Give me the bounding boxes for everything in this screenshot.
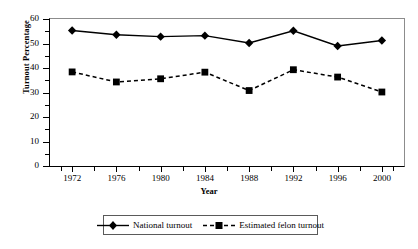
data-point-1-1996 — [334, 74, 341, 81]
data-point-0-1988 — [245, 39, 253, 47]
x-tick-minor-1998 — [360, 167, 361, 171]
y-tick-label-0: 0 — [0, 161, 39, 170]
x-tick-1984 — [205, 167, 206, 172]
x-tick-label-1992: 1992 — [271, 173, 315, 183]
x-tick-label-1996: 1996 — [316, 173, 360, 183]
y-tick-label-10: 10 — [0, 137, 39, 146]
data-point-0-1996 — [333, 42, 341, 50]
chart-legend: National turnout Estimated felon turnout — [103, 215, 318, 235]
x-tick-1976 — [116, 167, 117, 172]
x-tick-label-1984: 1984 — [183, 173, 227, 183]
data-point-0-1972 — [68, 26, 76, 34]
data-point-1-1984 — [201, 69, 208, 76]
legend-label-felon: Estimated felon turnout — [239, 220, 324, 230]
legend-label-national: National turnout — [133, 220, 192, 230]
x-tick-1996 — [338, 167, 339, 172]
data-point-1-2000 — [378, 89, 385, 96]
x-tick-label-2000: 2000 — [360, 173, 404, 183]
x-tick-1980 — [161, 167, 162, 172]
series-canvas — [50, 19, 404, 166]
x-tick-1988 — [249, 167, 250, 172]
x-tick-label-1972: 1972 — [50, 173, 94, 183]
legend-swatch-solid-diamond-icon — [97, 220, 129, 231]
x-tick-minor-edge-0 — [61, 167, 62, 171]
data-point-0-1976 — [112, 30, 120, 38]
data-point-0-2000 — [378, 36, 386, 44]
data-point-0-1992 — [289, 27, 297, 35]
x-tick-1992 — [293, 167, 294, 172]
x-tick-2000 — [382, 167, 383, 172]
legend-swatch-dashed-square-icon — [203, 220, 235, 231]
y-tick-label-40: 40 — [0, 63, 39, 72]
data-point-0-1980 — [156, 32, 164, 40]
legend-item-felon[interactable]: Estimated felon turnout — [203, 220, 324, 231]
data-point-1-1980 — [157, 75, 164, 82]
x-tick-minor-1994 — [316, 167, 317, 171]
x-tick-minor-1982 — [183, 167, 184, 171]
x-tick-label-1988: 1988 — [227, 173, 271, 183]
x-tick-minor-1990 — [271, 167, 272, 171]
x-tick-minor-1974 — [94, 167, 95, 171]
x-tick-label-1976: 1976 — [94, 173, 138, 183]
data-point-1-1988 — [246, 87, 253, 94]
x-tick-minor-1986 — [227, 167, 228, 171]
x-tick-label-1980: 1980 — [139, 173, 183, 183]
y-tick-label-20: 20 — [0, 112, 39, 121]
y-tick-label-30: 30 — [0, 88, 39, 97]
x-tick-1972 — [72, 167, 73, 172]
data-point-1-1972 — [69, 69, 76, 76]
x-tick-minor-1978 — [139, 167, 140, 171]
y-tick-label-50: 50 — [0, 39, 39, 48]
data-point-1-1992 — [290, 66, 297, 73]
data-point-0-1984 — [201, 31, 209, 39]
y-tick-label-60: 60 — [0, 14, 39, 23]
x-axis-title: Year — [0, 186, 418, 196]
plot-area — [49, 18, 405, 167]
chart-figure: Turnout Percentage 0102030405060 1972197… — [0, 0, 418, 249]
data-point-1-1976 — [113, 79, 120, 86]
legend-item-national[interactable]: National turnout — [97, 220, 192, 231]
x-tick-minor-edge-1 — [393, 167, 394, 171]
